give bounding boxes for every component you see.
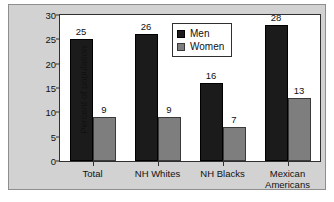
chart-legend: MenWomen: [172, 23, 232, 57]
x-axis-tick-mark: [158, 161, 159, 166]
figure: 051015202530259Total269NH Whites167NH Bl…: [0, 0, 334, 202]
y-axis-tick-mark: [56, 39, 60, 40]
x-axis-tick-label-line: Total: [82, 168, 102, 179]
y-axis-tick-label: 0: [34, 156, 56, 167]
x-axis-tick-label-line: Mexican: [265, 168, 310, 179]
x-axis-tick-mark: [93, 161, 94, 166]
bar-value-label: 28: [271, 12, 282, 23]
bar-value-label: 7: [231, 114, 236, 125]
y-axis-tick-label: 10: [34, 107, 56, 118]
y-axis-tick-label: 30: [34, 10, 56, 21]
x-axis-tick-label: Total: [82, 168, 102, 179]
chart-panel: 051015202530259Total269NH Whites167NH Bl…: [8, 4, 326, 190]
x-axis-tick-mark: [223, 161, 224, 166]
y-axis-tick-mark: [56, 88, 60, 89]
legend-swatch-men-icon: [177, 30, 185, 38]
bar-value-label: 13: [294, 85, 305, 96]
legend-item-men[interactable]: Men: [177, 27, 224, 40]
bar-women-1[interactable]: [158, 117, 181, 161]
legend-label: Women: [190, 41, 224, 52]
bar-women-3[interactable]: [288, 98, 311, 161]
x-axis-tick-label-line: NH Whites: [135, 168, 180, 179]
x-axis-tick-label-line: NH Blacks: [200, 168, 244, 179]
bar-value-label: 9: [166, 104, 171, 115]
x-axis-tick-label: NH Whites: [135, 168, 180, 179]
y-axis-tick-mark: [56, 161, 60, 162]
bar-men-1[interactable]: [135, 34, 158, 161]
x-axis-tick-label: NH Blacks: [200, 168, 244, 179]
bar-women-0[interactable]: [93, 117, 116, 161]
bar-value-label: 9: [101, 104, 106, 115]
x-axis-tick-mark: [288, 161, 289, 166]
legend-item-women[interactable]: Women: [177, 40, 224, 53]
y-axis-tick-label: 15: [34, 83, 56, 94]
y-axis-tick-label: 5: [34, 131, 56, 142]
legend-swatch-women-icon: [177, 43, 185, 51]
bar-men-3[interactable]: [265, 25, 288, 161]
x-axis-tick-label-line: Americans: [265, 179, 310, 190]
bar-value-label: 16: [206, 70, 217, 81]
bar-men-2[interactable]: [200, 83, 223, 161]
legend-label: Men: [190, 28, 209, 39]
y-axis-tick-label: 25: [34, 34, 56, 45]
y-axis-title: Percent of population: [78, 17, 92, 163]
x-axis-tick-label: MexicanAmericans: [265, 168, 310, 190]
y-axis-tick-label: 20: [34, 58, 56, 69]
y-axis-tick-mark: [56, 63, 60, 64]
bar-women-2[interactable]: [223, 127, 246, 161]
plot-frame: 051015202530259Total269NH Whites167NH Bl…: [59, 14, 321, 162]
y-axis-tick-mark: [56, 136, 60, 137]
y-axis-tick-mark: [56, 112, 60, 113]
y-axis-tick-mark: [56, 15, 60, 16]
bar-value-label: 26: [141, 21, 152, 32]
